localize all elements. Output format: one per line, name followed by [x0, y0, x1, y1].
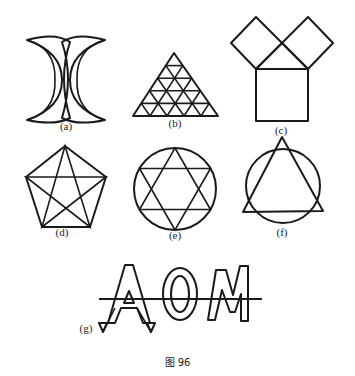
figure-g-letters	[0, 0, 355, 376]
label-g: (g)	[66, 322, 106, 334]
figure-caption: 图 96	[0, 354, 355, 369]
